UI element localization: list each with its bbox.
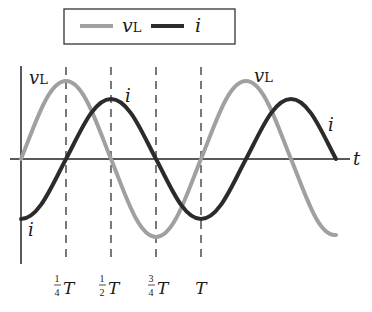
svg-text:2: 2 xyxy=(100,287,105,298)
svg-text:T: T xyxy=(108,278,121,298)
vl-label-right: vL xyxy=(254,65,273,86)
tick-T: T xyxy=(195,278,208,298)
svg-text:1: 1 xyxy=(100,273,105,284)
tick-three-quarter-T: 3 4 T xyxy=(148,273,170,298)
svg-text:T: T xyxy=(63,278,76,298)
i-label-bottom: i xyxy=(28,219,34,240)
legend: vL i xyxy=(64,9,235,44)
vl-label-left: vL xyxy=(29,67,48,88)
x-axis-label: t xyxy=(353,148,361,169)
svg-text:T: T xyxy=(195,278,208,298)
svg-text:T: T xyxy=(157,278,170,298)
quarter-period-guides xyxy=(66,67,201,258)
svg-text:1: 1 xyxy=(55,273,60,284)
legend-i-label: i xyxy=(195,14,201,36)
tick-quarter-T: 1 4 T xyxy=(54,273,76,298)
diagram-canvas: vL i t vL vL i i i 1 4 T 1 2 T 3 4 T xyxy=(0,0,372,312)
tick-half-T: 1 2 T xyxy=(99,273,121,298)
svg-text:4: 4 xyxy=(55,287,60,298)
i-label-right: i xyxy=(328,114,334,135)
svg-text:3: 3 xyxy=(149,273,154,284)
i-label-top: i xyxy=(125,85,131,106)
svg-text:4: 4 xyxy=(149,287,154,298)
